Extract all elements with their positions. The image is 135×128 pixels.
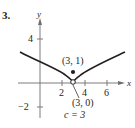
point-label-3-0: (3, 0) (72, 98, 94, 108)
y-axis-arrow-icon (38, 18, 42, 25)
point-label-3-1: (3, 1) (62, 56, 84, 66)
x-tick-label-2: 2 (59, 88, 64, 98)
y-tick-label-neg2: −2 (18, 102, 29, 112)
x-axis-arrow-icon (118, 81, 125, 85)
y-tick-label-4: 4 (28, 34, 33, 44)
y-axis-label: y (37, 9, 41, 19)
filled-dot-marker (71, 70, 75, 74)
problem-number: 3. (2, 10, 10, 20)
x-axis-label: x (127, 78, 131, 88)
c-value-label: c = 3 (64, 110, 85, 120)
open-circle-marker (71, 80, 76, 85)
x-tick-label-6: 6 (104, 88, 109, 98)
